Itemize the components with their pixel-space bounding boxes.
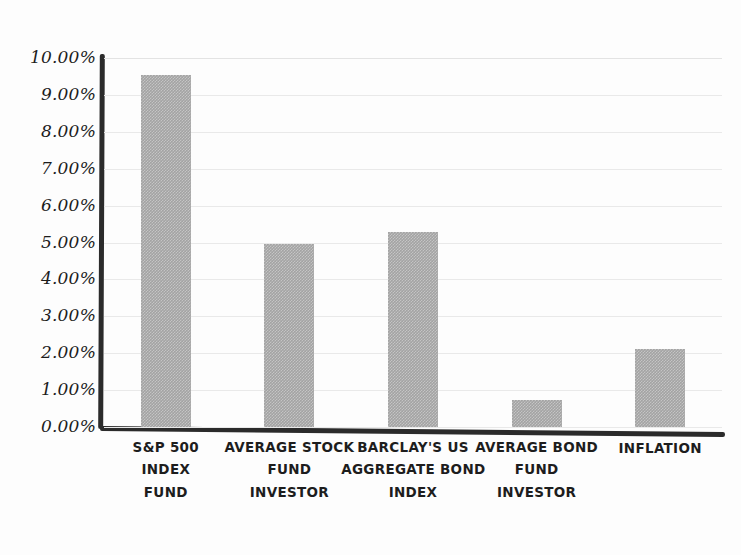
x-category-label-line: AVERAGE BOND xyxy=(465,435,609,458)
bar-chart: 10.00%9.00%8.00%7.00%6.00%5.00%4.00%3.00… xyxy=(0,0,741,555)
y-tick-label: 7.00% xyxy=(4,158,96,178)
x-category-label-line: FUND xyxy=(218,458,362,481)
x-category-label-line: INVESTOR xyxy=(465,481,609,504)
bar xyxy=(512,400,562,427)
x-category-label-line: AGGREGATE BOND xyxy=(341,458,485,481)
y-axis-tick-labels: 10.00%9.00%8.00%7.00%6.00%5.00%4.00%3.00… xyxy=(0,0,96,555)
gridline xyxy=(104,95,722,96)
gridline xyxy=(104,58,722,59)
y-tick-label: 3.00% xyxy=(4,305,96,325)
bar xyxy=(388,232,438,427)
x-category-label-line: INDEX xyxy=(341,481,485,504)
x-category-label: AVERAGE STOCKFUNDINVESTOR xyxy=(218,435,362,503)
gridline xyxy=(104,427,722,428)
y-tick-label: 4.00% xyxy=(4,268,96,288)
x-category-label-line: S&P 500 xyxy=(94,435,238,458)
x-category-label: AVERAGE BONDFUNDINVESTOR xyxy=(465,435,609,503)
x-axis-category-labels: S&P 500INDEXFUNDAVERAGE STOCKFUNDINVESTO… xyxy=(104,438,722,548)
bar xyxy=(635,349,685,427)
x-category-label: S&P 500INDEXFUND xyxy=(94,435,238,503)
x-category-label: INFLATION xyxy=(588,437,732,460)
x-category-label-line: INDEX xyxy=(94,458,238,481)
y-tick-label: 8.00% xyxy=(4,121,96,141)
x-category-label-line: AVERAGE STOCK xyxy=(218,435,362,458)
y-tick-label: 5.00% xyxy=(4,232,96,252)
y-tick-label: 9.00% xyxy=(4,84,96,104)
x-category-label: BARCLAY'S USAGGREGATE BONDINDEX xyxy=(341,435,485,503)
y-tick-label: 2.00% xyxy=(4,342,96,362)
plot-area xyxy=(104,58,722,427)
bar xyxy=(141,75,191,427)
gridline xyxy=(104,206,722,207)
x-category-label-line: FUND xyxy=(465,458,609,481)
x-category-label-line: BARCLAY'S US xyxy=(341,435,485,458)
x-category-label-line: INFLATION xyxy=(588,437,732,460)
gridline xyxy=(104,169,722,170)
y-tick-label: 1.00% xyxy=(4,379,96,399)
y-tick-label: 10.00% xyxy=(4,47,96,67)
y-tick-label: 6.00% xyxy=(4,195,96,215)
gridline xyxy=(104,132,722,133)
bar xyxy=(264,244,314,427)
x-category-label-line: INVESTOR xyxy=(218,481,362,504)
x-category-label-line: FUND xyxy=(94,481,238,504)
y-tick-label: 0.00% xyxy=(4,416,96,436)
